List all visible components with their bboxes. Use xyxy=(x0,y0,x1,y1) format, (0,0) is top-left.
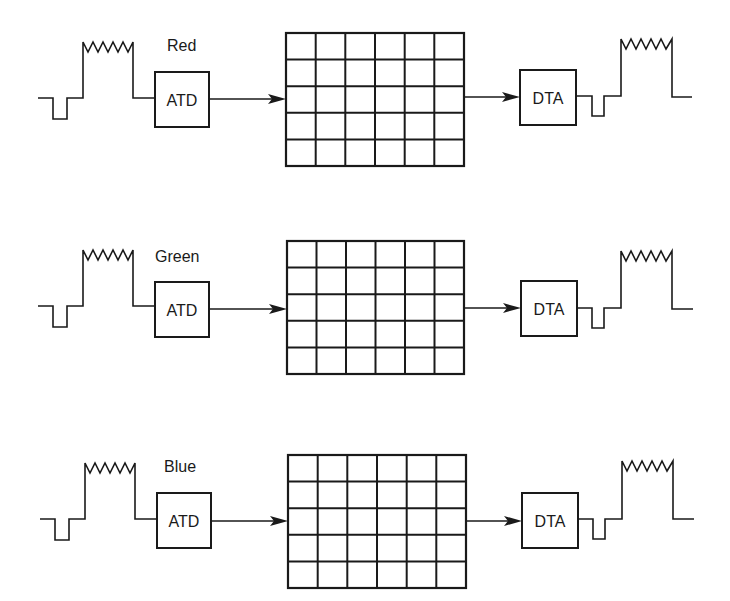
channel-red: Red ATD DTA xyxy=(38,33,692,166)
input-waveform-icon xyxy=(40,463,157,540)
input-waveform-icon xyxy=(38,42,155,119)
dta-block-label: DTA xyxy=(535,513,566,530)
input-waveform-icon xyxy=(38,250,155,327)
channel-label: Red xyxy=(167,37,196,54)
pixel-memory-grid xyxy=(286,33,464,166)
channel-green: Green ATD DTA xyxy=(38,241,693,374)
output-waveform-icon xyxy=(576,39,692,116)
output-waveform-icon xyxy=(577,251,693,328)
rgb-channel-diagram: Red ATD DTA Green ATD xyxy=(0,0,730,601)
atd-block-label: ATD xyxy=(169,513,200,530)
atd-block-label: ATD xyxy=(167,92,198,109)
output-waveform-icon xyxy=(578,461,694,539)
pixel-memory-grid xyxy=(287,241,464,374)
channel-label: Green xyxy=(155,248,199,265)
atd-block-label: ATD xyxy=(167,302,198,319)
dta-block-label: DTA xyxy=(534,301,565,318)
channel-blue: Blue ATD DTA xyxy=(40,455,694,588)
channel-label: Blue xyxy=(164,458,196,475)
pixel-memory-grid xyxy=(288,455,466,588)
dta-block-label: DTA xyxy=(533,90,564,107)
